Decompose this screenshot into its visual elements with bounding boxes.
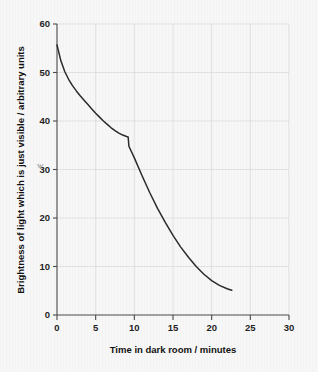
x-axis-tick-label: 5 (93, 322, 99, 333)
x-axis-tick-label: 0 (54, 322, 59, 333)
pencil-smudge-annotation: w (37, 160, 44, 170)
y-axis-tick-label: 20 (39, 212, 50, 223)
y-axis-title: Brightness of light which is just visibl… (15, 46, 26, 294)
y-axis-tick-label: 60 (39, 18, 50, 29)
x-axis-tick-label: 30 (284, 322, 295, 333)
y-axis-tick-label: 0 (45, 309, 50, 320)
y-axis-tick-label: 10 (39, 261, 50, 272)
x-axis-tick-label: 10 (129, 322, 140, 333)
x-axis-ticks: 051015202530 (54, 315, 294, 333)
grid-lines (57, 24, 289, 315)
x-axis-tick-label: 25 (245, 322, 256, 333)
x-axis-title: Time in dark room / minutes (110, 344, 237, 355)
y-axis-tick-label: 50 (39, 67, 50, 78)
x-axis-tick-label: 15 (168, 322, 179, 333)
figure-panel: 0102030405060 051015202530 w Time in dar… (0, 0, 318, 372)
dark-adaptation-chart: 0102030405060 051015202530 w Time in dar… (0, 0, 318, 372)
x-axis-tick-label: 20 (206, 322, 217, 333)
y-axis-tick-label: 40 (39, 115, 50, 126)
data-series-line (57, 45, 232, 290)
